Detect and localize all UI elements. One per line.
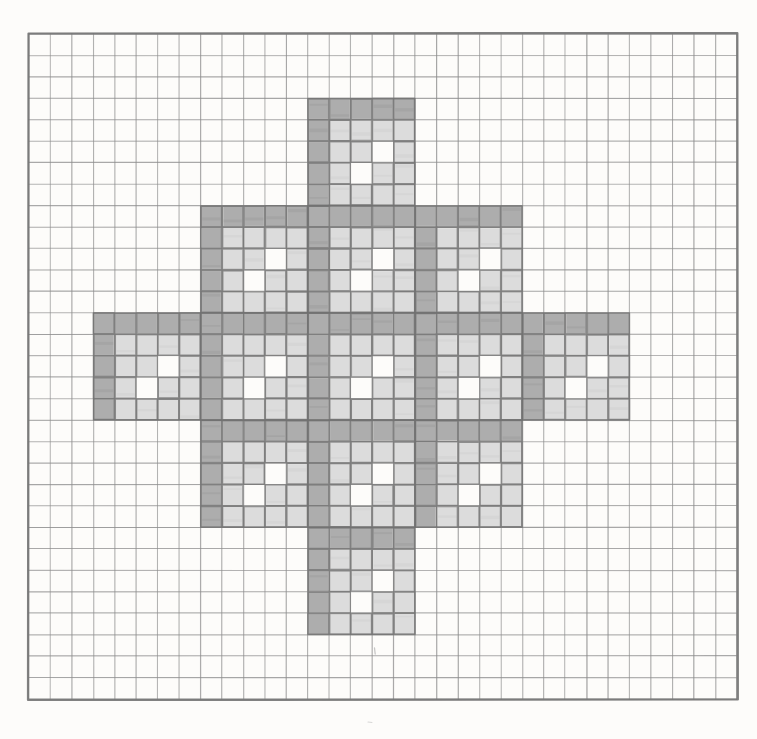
drawing-canvas [0, 0, 757, 739]
graph-paper-svg [0, 0, 757, 739]
